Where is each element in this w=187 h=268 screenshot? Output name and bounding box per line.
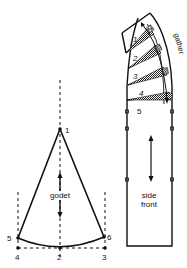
- point-3-label: 3: [102, 253, 107, 262]
- point-6-dot: [102, 235, 106, 239]
- section-5-label: 5: [137, 107, 142, 116]
- dart-4-hatched: [127, 92, 171, 100]
- point-4-label: 4: [15, 253, 20, 262]
- arrow-down-icon: [58, 212, 63, 218]
- point-5-dot: [16, 236, 20, 240]
- section-3-label: 3: [133, 72, 138, 81]
- section-1-label: 1: [133, 35, 137, 44]
- gather-label: gather: [172, 32, 186, 55]
- godet-right-edge: [60, 129, 104, 237]
- side-front-label-line2: front: [141, 200, 158, 209]
- point-1-label: 1: [65, 126, 70, 135]
- point-5-label: 5: [7, 234, 12, 243]
- section-1-top-edge: [122, 13, 150, 33]
- godet-label: godet: [50, 191, 71, 200]
- point-1-dot: [58, 127, 62, 131]
- gather-arrow-bottom-icon: [165, 98, 169, 104]
- arrow-up-icon: [58, 172, 63, 178]
- section-2-label: 2: [132, 54, 138, 63]
- arrow-up-icon: [149, 135, 154, 141]
- point-4-dot: [16, 246, 20, 250]
- godet-left-edge: [18, 129, 60, 238]
- section-4-label: 4: [139, 89, 144, 98]
- godet-hem-curve: [18, 237, 104, 247]
- arrow-down-icon: [149, 176, 154, 182]
- section-1-left-cap: [122, 33, 126, 53]
- point-2-label: 2: [57, 253, 62, 262]
- side-front-label-line1: side: [142, 191, 157, 200]
- side-front-body-outline: [127, 104, 172, 246]
- point-2-dot: [58, 246, 62, 250]
- point-3-dot: [103, 246, 107, 250]
- pattern-diagram: godet 1 5 6 4 2 3 1 2: [0, 0, 187, 268]
- godet-pattern: godet 1 5 6 4 2 3: [7, 80, 112, 262]
- side-front-pattern: 1 2 3 4 5 gather side front: [122, 13, 186, 246]
- point-6-label: 6: [107, 233, 112, 242]
